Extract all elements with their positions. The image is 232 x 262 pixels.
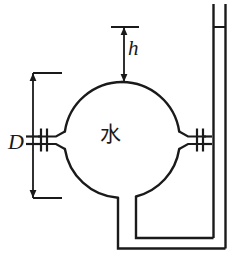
height-label: h bbox=[128, 38, 139, 59]
pipe-inner-wall bbox=[136, 197, 214, 239]
technical-diagram: D h 水 bbox=[0, 0, 232, 262]
diameter-arrow-top bbox=[30, 73, 37, 81]
fluid-label: 水 bbox=[100, 124, 121, 145]
sphere-tank bbox=[65, 82, 179, 198]
height-arrow-top bbox=[121, 27, 128, 35]
sphere-arc-bottom-left bbox=[65, 149, 118, 198]
right-flange-stub bbox=[179, 129, 212, 152]
bottom-elbow-pipe bbox=[118, 197, 226, 249]
vertical-standpipe bbox=[214, 4, 226, 249]
height-arrow-bottom bbox=[121, 74, 128, 82]
pipe-outer-wall bbox=[118, 198, 226, 249]
sphere-arc-top-right bbox=[122, 82, 179, 132]
sphere-arc-bottom-right bbox=[136, 149, 179, 197]
left-flange-stub bbox=[26, 129, 65, 152]
diameter-label: D bbox=[8, 131, 24, 153]
diameter-arrow-bottom bbox=[30, 190, 37, 198]
